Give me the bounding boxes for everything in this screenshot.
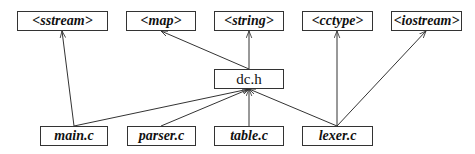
node-label: <map> [141, 13, 182, 29]
node-label: main.c [54, 128, 93, 144]
arrow-parserc-to-dch [161, 89, 249, 126]
node-lexer-c: lexer.c [302, 126, 373, 146]
node-cctype: <cctype> [302, 11, 373, 31]
node-iostream: <iostream> [391, 11, 462, 31]
node-label: table.c [230, 128, 268, 144]
node-string: <string> [214, 11, 284, 31]
node-table-c: table.c [214, 126, 284, 146]
node-label: dc.h [236, 71, 261, 88]
arrow-lexerc-to-iostream [337, 31, 426, 126]
arrow-dch-to-map [161, 31, 249, 69]
node-label: <cctype> [312, 13, 364, 29]
node-parser-c: parser.c [127, 126, 196, 146]
node-dc-h: dc.h [214, 69, 284, 89]
node-sstream: <sstream> [17, 11, 108, 31]
arrow-mainc-to-sstream [62, 31, 74, 126]
node-map: <map> [126, 11, 196, 31]
node-label: <iostream> [394, 13, 460, 29]
node-main-c: main.c [40, 126, 108, 146]
node-label: <string> [224, 13, 273, 29]
dependency-diagram: <sstream> <map> <string> <cctype> <iostr… [0, 0, 475, 154]
node-label: lexer.c [319, 128, 357, 144]
node-label: parser.c [139, 128, 185, 144]
arrow-lexerc-to-dch [249, 89, 337, 126]
node-label: <sstream> [32, 13, 92, 29]
arrow-mainc-to-dch [74, 89, 249, 126]
